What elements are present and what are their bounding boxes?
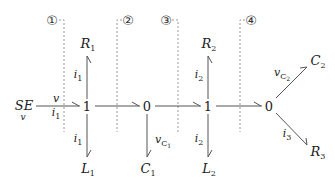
section-marker-1: ① xyxy=(46,14,58,27)
half-arrow-j2-c1 xyxy=(147,150,151,157)
element-r2: R2 xyxy=(202,37,217,53)
label-l1-flow: i1 xyxy=(74,133,83,147)
label-r3-flow: i3 xyxy=(283,128,292,142)
element-c2: C2 xyxy=(310,54,325,70)
source-se-sublabel: v xyxy=(20,113,25,122)
section-divider-3 xyxy=(172,20,178,132)
bond-j4-r3 xyxy=(276,113,307,145)
half-arrow-se-j1 xyxy=(72,102,79,106)
section-marker-3: ③ xyxy=(160,14,172,27)
half-arrow-j3-r2 xyxy=(208,56,212,63)
section-marker-2: ② xyxy=(122,14,134,27)
label-c2-effort: vC2 xyxy=(274,67,290,82)
junction-1-second: 1 xyxy=(204,100,212,113)
half-arrow-j3-j4 xyxy=(254,102,261,106)
label-se-flow: i1 xyxy=(52,107,61,121)
half-arrow-j1-r1 xyxy=(87,56,91,63)
section-divider-4 xyxy=(240,20,245,132)
element-c1: C1 xyxy=(140,162,155,178)
element-r1: R1 xyxy=(81,37,96,53)
label-se-effort: v xyxy=(53,93,59,104)
half-arrow-j3-l2 xyxy=(208,150,212,157)
half-arrow-j2-j3 xyxy=(193,102,200,106)
label-r2-flow: i2 xyxy=(195,69,204,83)
element-r3: R3 xyxy=(311,145,326,161)
section-marker-4: ④ xyxy=(245,14,257,27)
section-divider-2 xyxy=(117,20,122,132)
junction-1: 1 xyxy=(83,100,91,113)
source-se: SE xyxy=(15,99,33,112)
label-c1-effort: vC1 xyxy=(155,134,171,149)
half-arrow-j1-l1 xyxy=(87,150,91,157)
junction-0-second: 0 xyxy=(265,100,273,113)
element-l1: L1 xyxy=(81,162,95,178)
junction-0-first: 0 xyxy=(143,100,151,113)
element-l2: L2 xyxy=(202,162,216,178)
label-r1-flow: i1 xyxy=(74,69,83,83)
label-l2-flow: i2 xyxy=(195,133,204,147)
half-arrow-j1-j2 xyxy=(132,102,139,106)
